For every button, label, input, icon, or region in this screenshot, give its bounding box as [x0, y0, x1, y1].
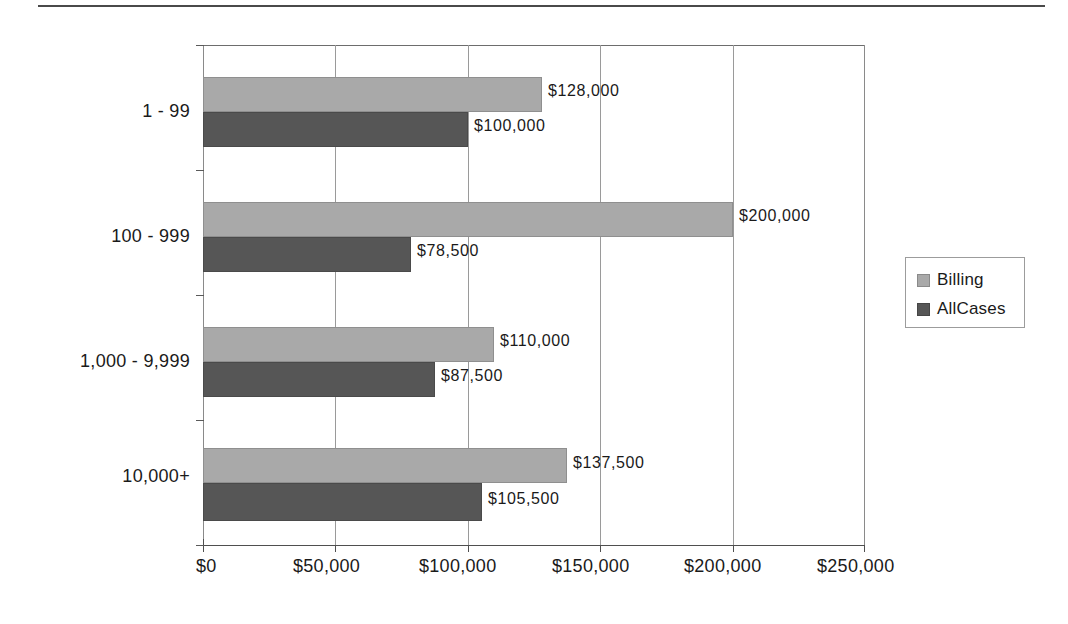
y-axis-label-3: 10,000+	[15, 466, 190, 487]
bar-chart-figure: 1 - 99 100 - 999 1,000 - 9,999 10,000+	[0, 0, 1068, 624]
x-axis-tick-label-5: $250,000	[817, 556, 894, 577]
legend-entry-allcases[interactable]: AllCases	[917, 299, 1006, 319]
bar-value-label-allcases-0: $100,000	[474, 117, 546, 135]
bar-billing-2[interactable]	[203, 327, 494, 362]
x-axis-tick-label-2: $100,000	[419, 556, 496, 577]
bar-billing-3[interactable]	[203, 448, 567, 483]
plot-area: $128,000 $100,000 $200,000 $78,500 $110,…	[203, 45, 865, 545]
y-axis-label-2: 1,000 - 9,999	[15, 351, 190, 372]
legend-entry-billing[interactable]: Billing	[917, 270, 984, 290]
ytick-mark-4	[196, 545, 204, 546]
x-axis-tick-label-1: $50,000	[293, 556, 360, 577]
y-axis-label-0: 1 - 99	[15, 101, 190, 122]
plot-border-right	[864, 45, 865, 545]
xtick-mark-250000	[864, 545, 865, 552]
bar-value-label-billing-2: $110,000	[500, 332, 570, 350]
y-axis-label-1: 100 - 999	[15, 226, 190, 247]
bar-allcases-3[interactable]	[203, 483, 482, 521]
ytick-mark-2	[196, 295, 204, 296]
legend-label-billing: Billing	[937, 270, 984, 290]
xtick-mark-50000	[335, 545, 336, 552]
bar-value-label-allcases-3: $105,500	[488, 490, 560, 508]
bar-value-label-allcases-1: $78,500	[417, 242, 479, 260]
bar-allcases-1[interactable]	[203, 237, 411, 272]
legend-swatch-icon-allcases	[917, 303, 930, 316]
legend-label-allcases: AllCases	[937, 299, 1006, 319]
x-axis-line	[197, 545, 865, 546]
plot-border-top	[203, 45, 865, 46]
chart-page: 1 - 99 100 - 999 1,000 - 9,999 10,000+	[0, 0, 1068, 624]
chart-legend: Billing AllCases	[905, 257, 1025, 328]
bar-allcases-2[interactable]	[203, 362, 435, 397]
bar-value-label-billing-3: $137,500	[573, 454, 645, 472]
xtick-mark-200000	[733, 545, 734, 552]
x-axis-tick-label-3: $150,000	[552, 556, 629, 577]
x-axis-tick-label-0: $0	[196, 556, 217, 577]
bar-billing-1[interactable]	[203, 202, 733, 237]
bar-billing-0[interactable]	[203, 77, 542, 112]
gridline-200000	[733, 45, 734, 545]
bar-value-label-billing-1: $200,000	[739, 207, 811, 225]
xtick-mark-150000	[600, 545, 601, 552]
ytick-mark-0	[196, 45, 204, 46]
ytick-mark-3	[196, 420, 204, 421]
legend-swatch-icon-billing	[917, 274, 930, 287]
ytick-mark-1	[196, 170, 204, 171]
bar-value-label-billing-0: $128,000	[548, 82, 620, 100]
xtick-mark-100000	[468, 545, 469, 552]
x-axis-tick-label-4: $200,000	[684, 556, 761, 577]
bar-allcases-0[interactable]	[203, 112, 468, 147]
bar-value-label-allcases-2: $87,500	[441, 367, 503, 385]
